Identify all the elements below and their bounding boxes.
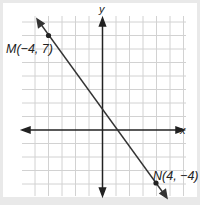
point-n-label: N(4, −4) bbox=[153, 169, 199, 183]
y-axis-up-arrow-icon bbox=[100, 18, 106, 26]
x-axis-left-arrow-icon bbox=[22, 127, 30, 133]
y-axis-down-arrow-icon bbox=[100, 188, 106, 196]
x-axis-label: x bbox=[179, 124, 186, 136]
y-axis-label: y bbox=[98, 3, 106, 15]
point-m bbox=[46, 33, 51, 38]
point-m-label: M(−4, 7) bbox=[6, 42, 53, 56]
coordinate-plane: x y M(−4, 7) N(4, −4) bbox=[0, 0, 200, 205]
